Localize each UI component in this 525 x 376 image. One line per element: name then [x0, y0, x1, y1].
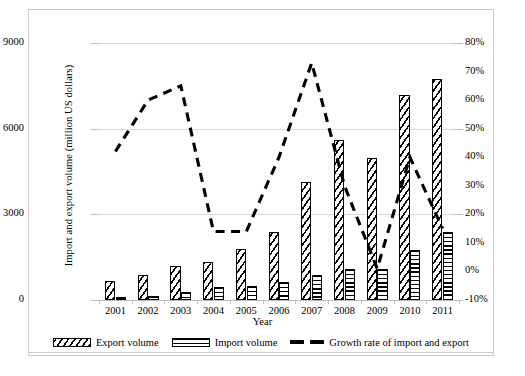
y-axis-right-tick-label: 0% — [465, 265, 511, 275]
y-axis-right-tick-label: 20% — [465, 208, 511, 218]
y-axis-right-tick-label: 10% — [465, 237, 511, 247]
legend-item: Growth rate of import and export — [290, 337, 469, 348]
legend-label: Export volume — [96, 337, 159, 348]
y-axis-left-tick-label: 9000 — [0, 37, 24, 47]
legend-dash-segment — [290, 340, 304, 343]
y-axis-left-tick-label: 0 — [0, 294, 24, 304]
legend-dash-segment — [310, 340, 324, 343]
chart-plot-frame: Import and export volume (million US dol… — [28, 9, 494, 356]
y-axis-left-title: Import and export volume (million US dol… — [63, 51, 74, 281]
legend-dashed-line-icon — [290, 340, 324, 343]
y-axis-right-tick-label: 80% — [465, 37, 511, 47]
legend-item: Export volume — [53, 337, 159, 348]
y-axis-left-tick-mark — [90, 43, 99, 44]
legend-export-swatch-icon — [53, 338, 91, 347]
y-axis-left-tick-label: 6000 — [0, 123, 24, 133]
y-axis-right-tick-label: 60% — [465, 94, 511, 104]
chart-figure: Import and export volume (million US dol… — [0, 0, 525, 376]
x-axis-tick-mark — [459, 300, 460, 304]
plot-area: 0300060009000 -10%0%10%20%30%40%50%60%70… — [99, 43, 459, 300]
growth-rate-line — [99, 43, 459, 300]
legend-label: Import volume — [215, 337, 278, 348]
y-axis-right-tick-label: -10% — [465, 294, 511, 304]
chart-legend: Export volumeImport volumeGrowth rate of… — [28, 331, 494, 353]
y-axis-left-tick-mark — [90, 300, 99, 301]
y-axis-right-tick-label: 30% — [465, 180, 511, 190]
y-axis-left-tick-label: 3000 — [0, 208, 24, 218]
legend-label: Growth rate of import and export — [329, 337, 469, 348]
x-axis-tick-label: 2011 — [423, 305, 463, 316]
y-axis-right-tick-label: 40% — [465, 151, 511, 161]
legend-item: Import volume — [172, 337, 278, 348]
y-axis-right-tick-label: 50% — [465, 123, 511, 133]
y-axis-left-tick-mark — [90, 129, 99, 130]
y-axis-left-tick-mark — [90, 214, 99, 215]
x-axis-title: Year — [0, 316, 525, 327]
legend-import-swatch-icon — [172, 338, 210, 347]
y-axis-right-tick-label: 70% — [465, 66, 511, 76]
legend-separator — [28, 352, 494, 353]
x-axis-line — [99, 300, 459, 301]
